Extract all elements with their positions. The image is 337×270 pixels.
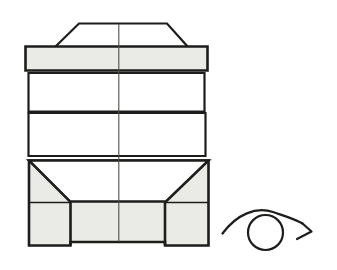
white-band-1-shape — [29, 73, 205, 112]
rotation-arrowhead-icon — [297, 224, 312, 240]
rotation-icon — [223, 210, 312, 250]
stack-figure — [26, 24, 209, 246]
orthographic-figure-svg — [0, 0, 337, 270]
diagram-canvas — [0, 0, 337, 270]
shaded-band-shape — [26, 47, 208, 71]
rotation-circle-icon — [248, 215, 283, 250]
top-trapezoid-shape — [55, 24, 188, 48]
white-band-2-shape — [29, 113, 206, 156]
